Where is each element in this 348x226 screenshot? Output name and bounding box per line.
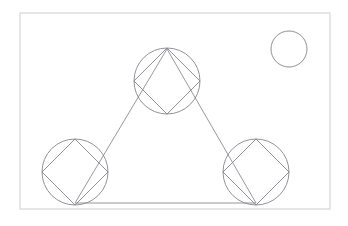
corner-circle [271, 31, 307, 67]
bottom-left-circle [42, 139, 108, 205]
outer-frame-rect [20, 13, 330, 209]
drawing-canvas: Geometric line drawing [0, 0, 348, 226]
bottom-right-circle [223, 139, 289, 205]
connecting-triangle [75, 49, 256, 203]
bottom-left-circle-group [42, 139, 108, 205]
top-circle-group [134, 48, 200, 114]
bottom-right-circle-group [223, 139, 289, 205]
top-circle [134, 48, 200, 114]
geometric-figure: Geometric line drawing [0, 0, 348, 226]
